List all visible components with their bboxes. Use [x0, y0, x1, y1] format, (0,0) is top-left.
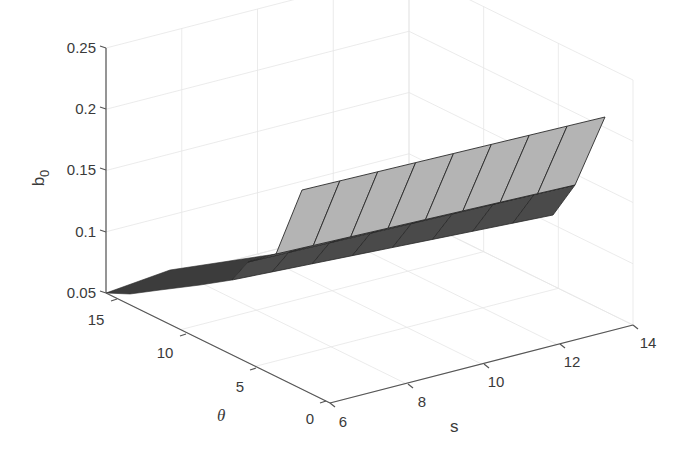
theta-axis-label: θ [217, 406, 225, 425]
surface-plot: 0.250.20.150.10.0515105068101214 b0 θ s [0, 0, 697, 455]
s-tick [408, 384, 413, 388]
z-tick-label: 0.15 [67, 161, 96, 178]
theta-tick [320, 401, 326, 403]
z-tick [100, 291, 106, 293]
z-axis-label: b0 [29, 170, 52, 187]
s-tick-label: 12 [564, 353, 581, 370]
z-tick-label: 0.05 [67, 284, 96, 301]
z-tick-label: 0.25 [67, 39, 96, 56]
grid-line [106, 31, 633, 141]
theta-tick-label: 5 [236, 378, 244, 395]
z-tick [100, 230, 106, 232]
z-tick-label: 0.1 [75, 223, 96, 240]
theta-tick [250, 368, 256, 370]
s-tick-label: 14 [640, 334, 657, 351]
s-tick-label: 8 [418, 393, 426, 410]
z-tick [100, 168, 106, 170]
s-axis [330, 325, 633, 403]
theta-tick [111, 299, 117, 301]
s-tick [484, 364, 489, 368]
s-tick [560, 344, 565, 348]
theta-tick-label: 10 [157, 344, 174, 361]
z-tick [100, 107, 106, 109]
surface-mesh [106, 117, 605, 294]
theta-axis [106, 293, 330, 403]
s-tick [330, 403, 335, 407]
s-tick-label: 10 [488, 373, 505, 390]
theta-tick-label: 15 [88, 311, 105, 328]
z-tick [100, 46, 106, 48]
z-tick-label: 0.2 [75, 100, 96, 117]
s-tick-label: 6 [339, 413, 347, 430]
s-tick [633, 325, 638, 329]
theta-tick [180, 334, 186, 336]
theta-tick-label: 0 [306, 410, 314, 427]
s-axis-label: s [450, 417, 459, 436]
grid-line [106, 0, 633, 80]
